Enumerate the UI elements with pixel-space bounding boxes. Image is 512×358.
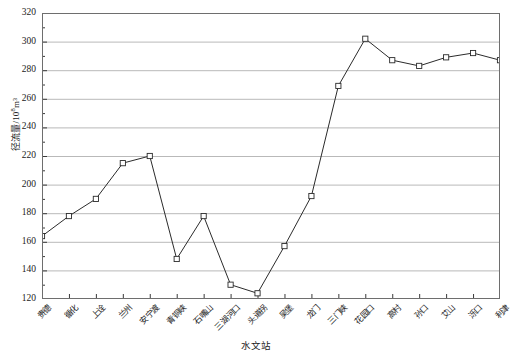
x-axis-title: 水文站 [0, 338, 512, 352]
runoff-line-chart: 径流量/108m³ 320300280260240220200180160140… [0, 0, 512, 358]
x-axis-tick-labels: 贵德循化上诠兰州安宁渡青铜峡石嘴山三湖河口头道拐吴堡龙门三门峡花园口高村孙口艾山… [0, 0, 512, 358]
